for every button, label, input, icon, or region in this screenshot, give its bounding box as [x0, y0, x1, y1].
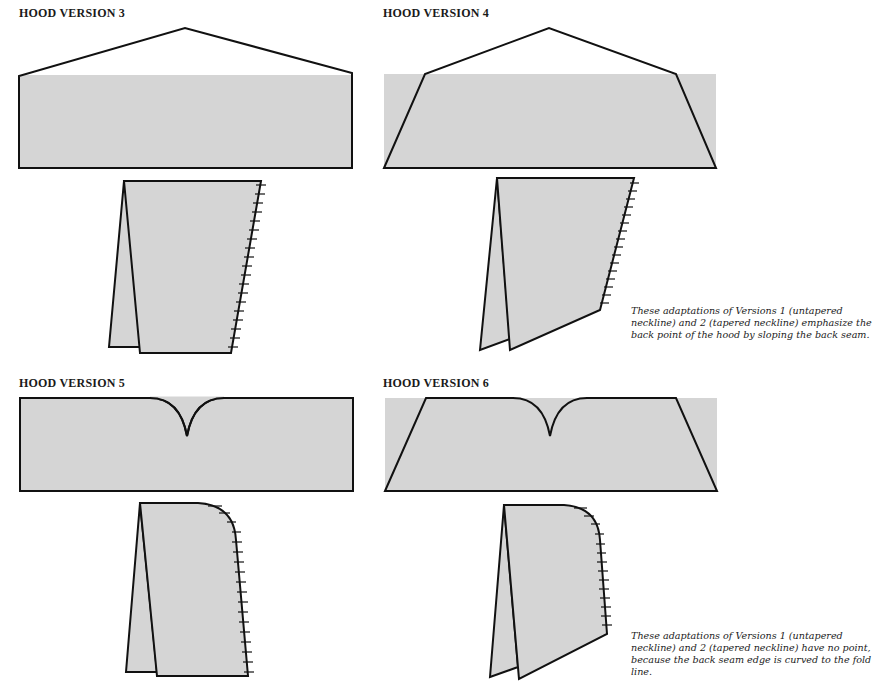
v4-flat-pattern — [384, 28, 716, 168]
version-5-diagram — [20, 398, 353, 676]
v6-flat-pattern — [385, 398, 717, 491]
v5-flat-pattern — [20, 398, 353, 491]
v3-folded-hood — [109, 181, 266, 353]
version-3-diagram — [19, 28, 352, 353]
v3-flat-pattern — [19, 28, 352, 168]
v4-folded-hood — [480, 178, 639, 350]
version-6-diagram — [385, 398, 717, 679]
v5-folded-hood — [126, 503, 254, 676]
v6-folded-hood — [490, 505, 612, 679]
version-4-diagram — [384, 28, 716, 350]
